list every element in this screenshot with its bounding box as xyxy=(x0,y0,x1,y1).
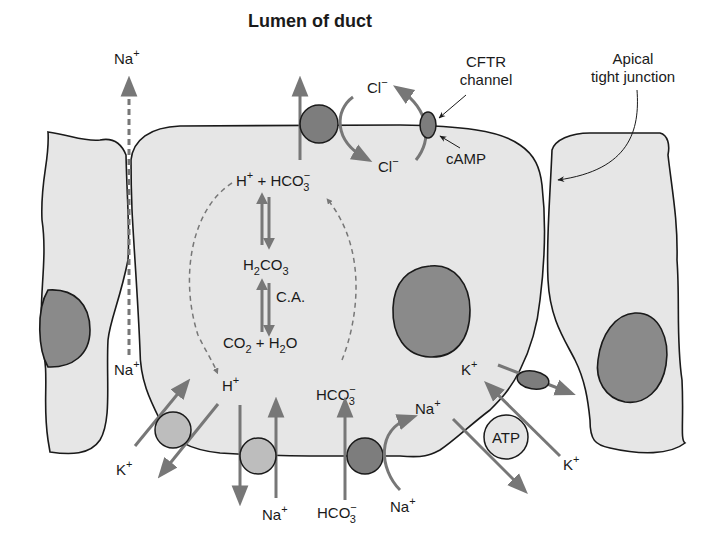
central-cell xyxy=(131,125,544,457)
label-na-bottom-right: Na+ xyxy=(390,495,416,515)
na-hco3-cotransporter xyxy=(347,438,383,474)
cftr-channel xyxy=(420,112,436,138)
duct-cell-diagram: Lumen of duct Na+ Na+ Cl− Cl− CFTRchanne… xyxy=(0,0,721,553)
label-tight-junction: Apicaltight junction xyxy=(591,50,675,85)
label-k-left: K+ xyxy=(116,458,132,478)
label-atp: ATP xyxy=(492,429,520,446)
basolateral-transporter-left xyxy=(155,412,191,448)
label-hco3-outside: HCO−3 xyxy=(317,501,357,525)
lumen-title: Lumen of duct xyxy=(248,11,372,31)
label-na-bottom-left: Na+ xyxy=(262,503,288,523)
central-nucleus xyxy=(393,266,470,357)
k-channel xyxy=(516,368,551,391)
label-na-paracellular-top: Na+ xyxy=(114,47,140,67)
right-cell xyxy=(547,133,685,453)
label-k-right: K+ xyxy=(563,453,579,473)
label-cftr: CFTRchannel xyxy=(460,53,513,88)
cftr-pointer xyxy=(439,95,466,118)
cl-hco3-exchanger xyxy=(300,105,338,143)
na-h-exchanger xyxy=(240,438,276,474)
label-cl-top: Cl− xyxy=(367,76,388,96)
label-na-paracellular-bottom: Na+ xyxy=(114,358,140,378)
label-camp: cAMP xyxy=(446,150,486,167)
label-carbonic-anhydrase: C.A. xyxy=(276,288,305,305)
